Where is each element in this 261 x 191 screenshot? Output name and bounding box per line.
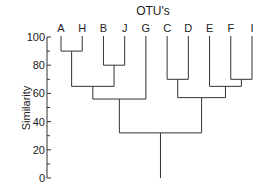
y-tick-label: 100 bbox=[27, 31, 45, 43]
dendrogram-tree bbox=[61, 36, 252, 178]
leaf-label: F bbox=[227, 22, 234, 34]
chart-title: OTU's bbox=[136, 4, 170, 18]
y-tick-label: 60 bbox=[33, 87, 45, 99]
y-tick-label: 20 bbox=[33, 144, 45, 156]
leaf-labels: AHBJGCDEFI bbox=[57, 22, 253, 34]
leaf-label: A bbox=[57, 22, 65, 34]
y-tick-label: 40 bbox=[33, 116, 45, 128]
dendrogram-chart: OTU's Similarity 020406080100 AHBJGCDEFI bbox=[0, 0, 261, 191]
leaf-label: B bbox=[100, 22, 107, 34]
leaf-label: D bbox=[184, 22, 192, 34]
leaf-label: J bbox=[122, 22, 128, 34]
leaf-label: E bbox=[206, 22, 213, 34]
leaf-label: I bbox=[250, 22, 253, 34]
y-tick-label: 0 bbox=[39, 172, 45, 184]
leaf-label: G bbox=[142, 22, 151, 34]
y-axis-label: Similarity bbox=[20, 85, 32, 130]
leaf-label: C bbox=[163, 22, 171, 34]
leaf-label: H bbox=[78, 22, 86, 34]
y-tick-label: 80 bbox=[33, 59, 45, 71]
